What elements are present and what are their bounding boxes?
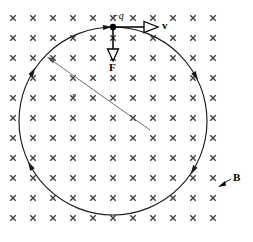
field-mark-into-page: [50, 115, 55, 120]
field-mark-into-page: [90, 215, 95, 220]
field-mark-into-page: [70, 215, 75, 220]
field-mark-into-page: [50, 195, 55, 200]
field-mark-into-page: [70, 135, 75, 140]
field-mark-into-page: [10, 195, 15, 200]
field-mark-into-page: [210, 35, 215, 40]
field-mark-into-page: [170, 35, 175, 40]
charge-label: −q: [112, 11, 124, 21]
field-mark-into-page: [210, 75, 215, 80]
field-mark-into-page: [50, 215, 55, 220]
field-mark-into-page: [110, 155, 115, 160]
field-mark-into-page: [150, 155, 155, 160]
field-mark-into-page: [10, 135, 15, 140]
field-mark-into-page: [190, 195, 195, 200]
field-mark-into-page: [30, 135, 35, 140]
field-mark-into-page: [190, 35, 195, 40]
charged-particle-dot: [110, 24, 116, 30]
field-mark-into-page: [210, 115, 215, 120]
magnetic-field-diagram: −q v F r B: [0, 0, 253, 242]
field-mark-into-page: [170, 155, 175, 160]
field-mark-into-page: [30, 215, 35, 220]
field-mark-into-page: [190, 215, 195, 220]
field-mark-into-page: [150, 175, 155, 180]
field-mark-into-page: [30, 55, 35, 60]
field-mark-into-page: [10, 55, 15, 60]
field-mark-into-page: [150, 115, 155, 120]
field-mark-into-page: [30, 115, 35, 120]
field-mark-into-page: [70, 175, 75, 180]
field-mark-into-page: [10, 35, 15, 40]
field-mark-into-page: [90, 15, 95, 20]
field-mark-into-page: [150, 195, 155, 200]
field-mark-into-page: [50, 95, 55, 100]
field-mark-into-page: [70, 155, 75, 160]
field-pointer-arrowhead: [218, 181, 226, 187]
field-mark-into-page: [190, 115, 195, 120]
field-mark-into-page: [110, 115, 115, 120]
field-mark-into-page: [30, 155, 35, 160]
diagram-canvas: [0, 0, 253, 242]
velocity-arrowhead-icon: [144, 22, 158, 33]
field-mark-into-page: [130, 35, 135, 40]
field-mark-into-page: [90, 35, 95, 40]
field-mark-into-page: [190, 95, 195, 100]
orbit-direction-arrowhead: [191, 165, 198, 174]
field-mark-into-page: [150, 15, 155, 20]
field-mark-into-page: [210, 95, 215, 100]
field-mark-into-page: [50, 155, 55, 160]
field-mark-into-page: [170, 175, 175, 180]
field-mark-into-page: [210, 175, 215, 180]
field-mark-into-page: [30, 195, 35, 200]
field-mark-into-page: [10, 115, 15, 120]
field-mark-into-page: [210, 55, 215, 60]
field-mark-into-page: [110, 135, 115, 140]
field-mark-into-page: [130, 75, 135, 80]
field-mark-into-page: [70, 75, 75, 80]
field-mark-into-page: [130, 135, 135, 140]
field-mark-into-page: [90, 155, 95, 160]
force-arrowhead-icon: [108, 49, 119, 61]
field-mark-into-page: [10, 175, 15, 180]
radius-label: r: [72, 92, 76, 102]
field-mark-into-page: [90, 95, 95, 100]
field-mark-into-page: [210, 155, 215, 160]
velocity-label: v: [162, 20, 168, 31]
orbit-direction-arrowhead: [28, 68, 35, 77]
field-mark-into-page: [110, 195, 115, 200]
radius-annotation: [47, 57, 150, 130]
field-mark-into-page: [170, 55, 175, 60]
field-mark-into-page: [150, 55, 155, 60]
field-mark-into-page: [150, 135, 155, 140]
field-mark-into-page: [90, 135, 95, 140]
field-mark-into-page: [130, 155, 135, 160]
field-mark-into-page: [170, 95, 175, 100]
field-mark-into-page: [30, 15, 35, 20]
velocity-vector: [113, 22, 158, 33]
field-mark-into-page: [190, 15, 195, 20]
field-mark-into-page: [110, 215, 115, 220]
field-mark-into-page: [10, 155, 15, 160]
force-vector: [108, 27, 119, 61]
field-mark-into-page: [50, 35, 55, 40]
field-label-pointer: [218, 179, 231, 187]
field-mark-into-page: [190, 155, 195, 160]
field-mark-into-page: [90, 115, 95, 120]
field-mark-into-page: [70, 15, 75, 20]
field-mark-into-page: [50, 15, 55, 20]
field-mark-into-page: [150, 75, 155, 80]
field-mark-into-page: [130, 215, 135, 220]
orbit-direction-arrowhead: [28, 162, 35, 171]
field-mark-into-page: [150, 215, 155, 220]
field-mark-into-page: [90, 75, 95, 80]
field-label: B: [233, 172, 240, 183]
field-mark-into-page: [30, 95, 35, 100]
field-mark-into-page: [210, 215, 215, 220]
field-mark-into-page: [170, 135, 175, 140]
field-mark-into-page: [210, 15, 215, 20]
field-mark-into-page: [50, 175, 55, 180]
field-mark-into-page: [70, 55, 75, 60]
field-mark-into-page: [50, 135, 55, 140]
field-mark-into-page: [10, 75, 15, 80]
field-mark-into-page: [50, 75, 55, 80]
radius-line: [50, 59, 150, 130]
